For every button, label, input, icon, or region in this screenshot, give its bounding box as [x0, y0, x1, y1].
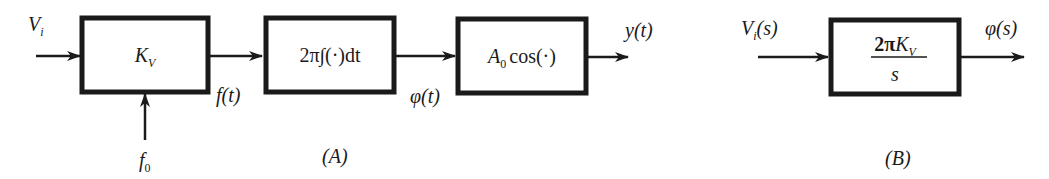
a0-sub: 0: [500, 57, 506, 71]
side-input-label-f0: f0: [139, 150, 151, 174]
signal-label-phit: φ(t): [410, 86, 440, 106]
vi-sub: i: [40, 25, 43, 39]
num-base: K: [895, 33, 908, 55]
caption-a: (A): [322, 146, 348, 166]
kv-sub: V: [148, 56, 155, 70]
tf-numerator: 2πKV: [831, 34, 959, 58]
block-integrator-label: 2π∫(·)dt: [266, 45, 394, 65]
vis-rest: (s): [757, 17, 778, 39]
a0-base: A: [488, 45, 500, 67]
block-kv-label: KV: [82, 45, 208, 69]
num-sub: V: [908, 45, 915, 59]
cos-text: cos(·): [509, 45, 556, 67]
num-prefix: 2π: [874, 33, 895, 55]
caption-a-text: (A): [322, 145, 348, 167]
output-label-yt: y(t): [625, 20, 653, 40]
f0-sub: 0: [145, 161, 151, 175]
vi-base: V: [28, 13, 40, 35]
block-cosine-label: A0cos(·): [458, 46, 586, 70]
kv-base: K: [135, 44, 148, 66]
input-label-vis: Vi(s): [741, 18, 778, 42]
caption-b: (B): [885, 148, 911, 168]
signal-label-ft: f(t): [216, 85, 240, 105]
input-label-vi: Vi: [28, 14, 44, 38]
vis-base: V: [741, 17, 753, 39]
output-label-phis: φ(s): [985, 18, 1017, 38]
tf-denominator: s: [831, 64, 959, 84]
